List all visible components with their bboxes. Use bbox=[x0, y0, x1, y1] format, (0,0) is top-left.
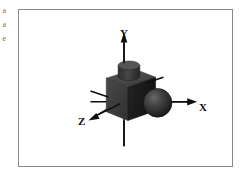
figure-frame: Y X Z bbox=[18, 9, 233, 167]
sphere bbox=[143, 88, 172, 117]
cylinder-on-cube-top bbox=[118, 61, 140, 81]
margin-text-fragment-3: e bbox=[0, 35, 6, 43]
x-axis-label: X bbox=[199, 102, 207, 113]
margin-text-fragment-2: a bbox=[0, 21, 6, 29]
margin-text-fragment-1: a bbox=[0, 7, 6, 15]
z-axis-label: Z bbox=[78, 116, 85, 127]
figure-page: a a e bbox=[0, 0, 244, 176]
y-axis-label: Y bbox=[120, 28, 128, 39]
